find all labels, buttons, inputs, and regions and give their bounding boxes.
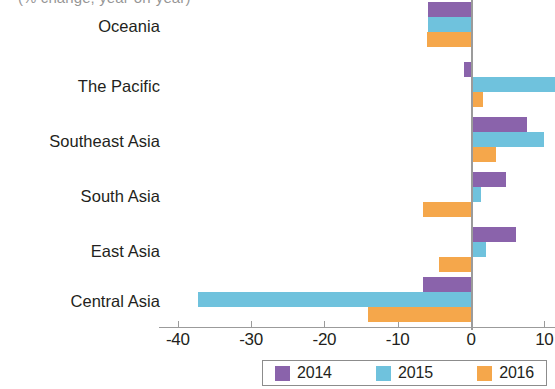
x-axis-tick-label: -40 xyxy=(166,330,190,350)
x-axis-tick-label: -10 xyxy=(386,330,410,350)
legend-swatch-2015 xyxy=(376,366,391,381)
x-axis-tick-label: -30 xyxy=(239,330,263,350)
legend-item-2016: 2016 xyxy=(477,364,534,382)
legend-swatch-2014 xyxy=(275,366,290,381)
legend-label-2014: 2014 xyxy=(297,364,332,382)
x-axis-tick-label: -20 xyxy=(313,330,337,350)
chart-legend: 2014 2015 2016 xyxy=(262,360,547,386)
legend-item-2014: 2014 xyxy=(275,364,332,382)
x-axis-tick-label: 10 xyxy=(535,330,553,350)
legend-item-2015: 2015 xyxy=(376,364,433,382)
legend-label-2015: 2015 xyxy=(398,364,433,382)
x-axis-tick-label: 0 xyxy=(466,330,475,350)
plot-area xyxy=(0,0,555,330)
legend-label-2016: 2016 xyxy=(499,364,534,382)
bar-chart: (% change, year-on-year) -40-30-20-10010… xyxy=(0,0,555,389)
legend-swatch-2016 xyxy=(477,366,492,381)
zero-axis-line xyxy=(471,0,473,330)
